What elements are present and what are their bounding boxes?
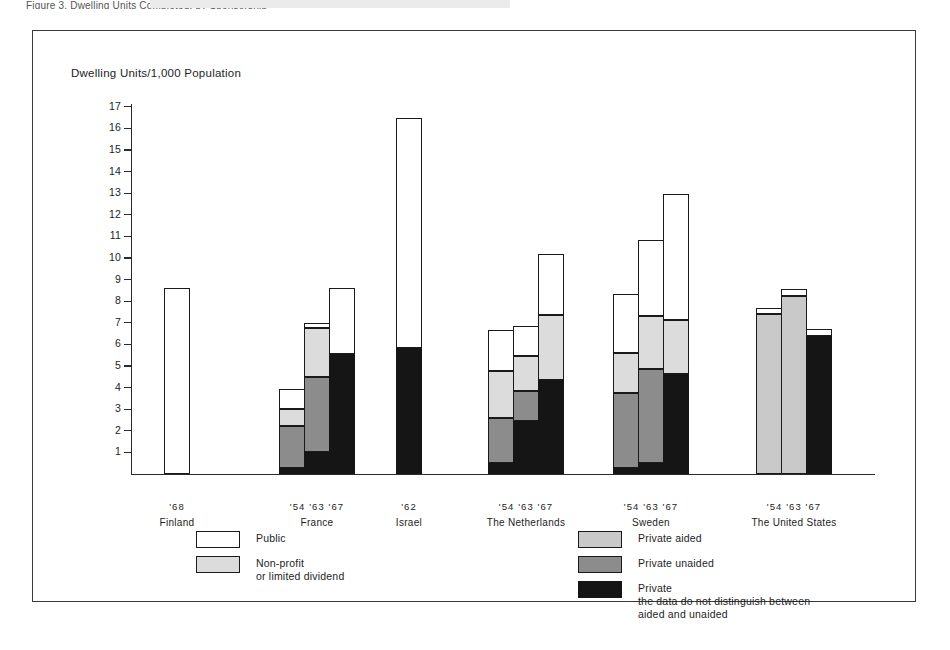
legend-swatch-unaided	[578, 556, 622, 573]
bar-segment-unaided	[279, 426, 305, 467]
y-tick-label: 3	[95, 402, 121, 414]
cropped-caption-bar	[150, 0, 510, 8]
chart-page: Figure 3. Dwelling Units Completed, by S…	[0, 0, 950, 650]
y-tick-mark	[124, 257, 132, 258]
bar-segment-public	[663, 194, 689, 319]
bar-segment-public	[538, 254, 564, 316]
cropped-page-header: Figure 3. Dwelling Units Completed, by S…	[0, 0, 950, 22]
bar-segment-private	[538, 380, 564, 474]
y-tick-label: 11	[95, 229, 121, 241]
bar-segment-nonprofit	[304, 328, 330, 377]
y-tick-mark	[124, 322, 132, 323]
legend-label-private: Privatethe data do not distinguish betwe…	[638, 582, 810, 621]
y-tick-mark	[124, 452, 132, 453]
bar-segment-public	[488, 330, 514, 371]
y-tick-mark	[124, 193, 132, 194]
bar-segment-private	[304, 452, 330, 474]
y-tick-label: 1	[95, 445, 121, 457]
y-tick-mark	[124, 409, 132, 410]
bar-segment-private	[396, 348, 422, 474]
bar-segment-unaided	[613, 393, 639, 468]
bar-france-63	[304, 323, 330, 474]
legend-swatch-private	[578, 581, 622, 598]
bar-segment-public	[329, 288, 355, 354]
y-tick-mark	[124, 430, 132, 431]
bar-segment-public	[396, 118, 422, 348]
y-tick-label: 2	[95, 424, 121, 436]
bar-segment-nonprofit	[513, 356, 539, 391]
legend-swatch-public	[196, 531, 240, 548]
y-tick-label: 8	[95, 294, 121, 306]
x-group-years: '54 '63 '67	[456, 501, 596, 512]
bar-segment-private	[638, 463, 664, 474]
bar-france-67	[329, 288, 355, 474]
bar-segment-aided	[781, 296, 807, 474]
chart-legend: PublicNon-profitor limited dividendPriva…	[33, 521, 917, 601]
bar-segment-public	[279, 389, 305, 410]
bar-segment-nonprofit	[488, 371, 514, 417]
legend-swatch-aided	[578, 531, 622, 548]
legend-label-aided: Private aided	[638, 532, 702, 545]
bar-segment-nonprofit	[638, 316, 664, 369]
y-tick-label: 6	[95, 337, 121, 349]
y-tick-label: 7	[95, 316, 121, 328]
bar-segment-private	[806, 336, 832, 474]
x-group-years: '54 '63 '67	[724, 501, 864, 512]
x-group-years: '68	[107, 501, 247, 512]
bar-segment-private	[279, 468, 305, 474]
y-tick-label: 14	[95, 165, 121, 177]
y-tick-mark	[124, 387, 132, 388]
bar-sweden-63	[638, 240, 664, 474]
bar-segment-unaided	[488, 418, 514, 463]
bar-segment-unaided	[304, 377, 330, 453]
bar-finland-68	[164, 288, 190, 474]
bar-segment-public	[513, 326, 539, 356]
bar-segment-private	[513, 421, 539, 474]
y-tick-label: 9	[95, 273, 121, 285]
bar-france-54	[279, 389, 305, 474]
legend-label-unaided: Private unaided	[638, 557, 714, 570]
bar-the-united-states-63	[781, 289, 807, 474]
bar-segment-private	[488, 463, 514, 474]
bar-segment-private	[329, 354, 355, 474]
bar-segment-private	[663, 374, 689, 474]
y-tick-label: 17	[95, 100, 121, 112]
y-tick-label: 12	[95, 208, 121, 220]
y-tick-label: 4	[95, 381, 121, 393]
legend-label-nonprofit: Non-profitor limited dividend	[256, 557, 344, 583]
bar-segment-nonprofit	[613, 353, 639, 393]
bar-the-united-states-67	[806, 329, 832, 474]
bar-segment-nonprofit	[279, 409, 305, 426]
bar-the-netherlands-54	[488, 330, 514, 474]
y-tick-label: 13	[95, 186, 121, 198]
x-group-years: '54 '63 '67	[581, 501, 721, 512]
legend-label-public: Public	[256, 532, 286, 545]
y-tick-mark	[124, 171, 132, 172]
y-tick-label: 15	[95, 143, 121, 155]
bar-segment-unaided	[638, 369, 664, 463]
y-tick-label: 5	[95, 359, 121, 371]
y-tick-mark	[124, 279, 132, 280]
y-tick-mark	[124, 344, 132, 345]
y-tick-mark	[124, 106, 132, 107]
legend-swatch-nonprofit	[196, 556, 240, 573]
bar-segment-nonprofit	[538, 315, 564, 380]
y-tick-mark	[124, 301, 132, 302]
y-axis-line	[131, 104, 132, 475]
y-tick-mark	[124, 365, 132, 366]
bar-sweden-67	[663, 194, 689, 474]
bar-the-netherlands-63	[513, 326, 539, 474]
y-tick-mark	[124, 236, 132, 237]
bar-segment-public	[164, 288, 190, 474]
y-tick-mark	[124, 214, 132, 215]
y-tick-label: 16	[95, 121, 121, 133]
bar-segment-nonprofit	[663, 320, 689, 374]
bar-the-netherlands-67	[538, 254, 564, 474]
bar-segment-aided	[756, 314, 782, 474]
plot-area: 1234567891011121314151617 '68Finland'54 …	[33, 31, 917, 603]
bar-segment-public	[638, 240, 664, 317]
bar-segment-unaided	[513, 391, 539, 421]
bar-segment-private	[613, 468, 639, 474]
y-tick-mark	[124, 128, 132, 129]
chart-frame: Dwelling Units/1,000 Population 12345678…	[32, 30, 916, 602]
